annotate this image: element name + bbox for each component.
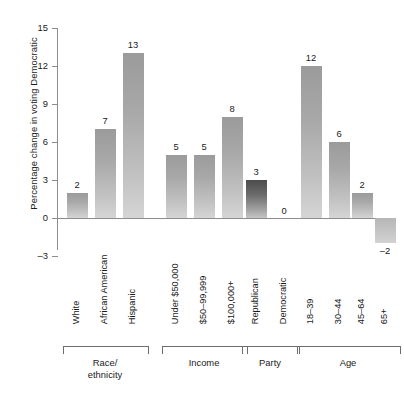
category-label: $50–99,999 [199, 276, 208, 325]
group-bracket [63, 346, 149, 354]
y-tick-label-6: 6 [18, 137, 48, 146]
bar-value-label: 0 [264, 206, 304, 215]
bar [194, 155, 215, 218]
bar [67, 193, 88, 218]
bar-value-label: 3 [236, 167, 276, 176]
y-axis-title: Percentage change in voting Democratic [28, 9, 39, 239]
category-label: $100,000+ [227, 281, 236, 325]
category-label: African American [100, 255, 109, 324]
category-label: 30–44 [334, 299, 343, 325]
y-tick-15 [52, 28, 58, 29]
category-label: Republican [251, 278, 260, 324]
bar-chart: Percentage change in voting Democratic –… [0, 0, 404, 405]
bar [301, 66, 322, 218]
category-label: Hispanic [128, 289, 137, 324]
bar [95, 129, 116, 218]
bar-value-label: 5 [184, 142, 224, 151]
bar-value-label: 6 [319, 129, 359, 138]
bar [352, 193, 373, 218]
y-tick-label-0: 0 [18, 213, 48, 222]
bar [123, 53, 144, 218]
bar [166, 155, 187, 218]
y-tick-9 [52, 104, 58, 105]
category-label: 45–64 [357, 299, 366, 325]
y-tick-6 [52, 142, 58, 143]
category-label: Under $50,000 [171, 263, 180, 324]
bar-value-label: 8 [212, 104, 252, 113]
bar-value-label: 7 [85, 116, 125, 125]
group-bracket [162, 346, 248, 354]
zero-baseline [57, 218, 387, 219]
category-label: 18–39 [306, 299, 315, 325]
bar-value-label: 2 [57, 180, 97, 189]
y-tick-label-3: 3 [18, 175, 48, 184]
category-label: White [72, 301, 81, 325]
group-label: Age [272, 357, 404, 369]
bar-value-label: 12 [291, 53, 331, 62]
category-label: Democratic [279, 278, 288, 324]
y-tick-label-12: 12 [18, 61, 48, 70]
y-tick--3 [52, 256, 58, 257]
group-label-line: ethnicity [38, 369, 172, 381]
group-bracket [242, 346, 300, 354]
y-tick-label--3: –3 [18, 251, 48, 260]
bar-value-label: 2 [342, 180, 382, 189]
y-tick-label-15: 15 [18, 23, 48, 32]
category-label: 65+ [380, 309, 389, 325]
y-tick-label-9: 9 [18, 99, 48, 108]
y-tick-12 [52, 66, 58, 67]
group-bracket [297, 346, 401, 354]
bar [375, 218, 396, 243]
y-tick-0 [52, 218, 58, 219]
y-axis-line [57, 28, 58, 250]
bar-value-label: –2 [365, 246, 404, 255]
bar-value-label: 13 [113, 40, 153, 49]
